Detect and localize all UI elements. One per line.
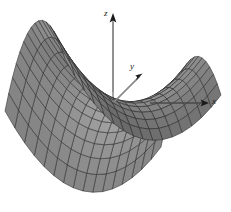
y-axis-label: y — [130, 62, 134, 71]
z-axis-label: z — [104, 9, 108, 18]
x-axis-label: x — [212, 97, 216, 106]
y-axis-visible-segment — [114, 77, 139, 102]
saddle-surface-figure: z y x — [0, 0, 231, 212]
surface-plot-canvas — [0, 0, 231, 212]
y-axis-arrowhead — [135, 73, 142, 80]
